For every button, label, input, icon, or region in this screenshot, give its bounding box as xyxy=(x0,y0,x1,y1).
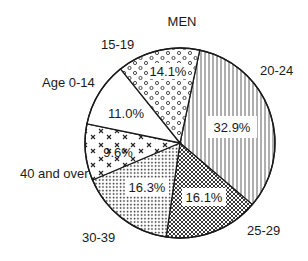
pie-chart: MEN 32.9% 16.1% 16.3% 9.6% 11.0% 14.1% 2… xyxy=(0,0,308,261)
slice-value-30-39: 16.3% xyxy=(125,178,169,196)
category-label-age-0-14: Age 0-14 xyxy=(42,75,95,90)
category-label-40-and-over: 40 and over xyxy=(20,166,89,181)
category-label-15-19: 15-19 xyxy=(101,37,134,52)
slice-value-25-29: 16.1% xyxy=(182,188,226,206)
svg-text:9.6%: 9.6% xyxy=(103,145,133,160)
chart-title: MEN xyxy=(168,14,197,29)
slice-value-20-24: 32.9% xyxy=(207,116,257,138)
slice-value-15-19: 14.1% xyxy=(148,63,188,79)
category-label-20-24: 20-24 xyxy=(260,63,293,78)
svg-text:32.9%: 32.9% xyxy=(214,120,251,135)
svg-text:16.3%: 16.3% xyxy=(129,180,166,195)
svg-text:11.0%: 11.0% xyxy=(108,106,144,121)
svg-text:14.1%: 14.1% xyxy=(150,64,187,79)
slice-value-age-0-14: 11.0% xyxy=(108,106,144,121)
category-label-25-29: 25-29 xyxy=(247,223,280,238)
slice-value-40-and-over: 9.6% xyxy=(103,145,133,160)
svg-text:16.1%: 16.1% xyxy=(186,190,223,205)
category-label-30-39: 30-39 xyxy=(82,230,115,245)
